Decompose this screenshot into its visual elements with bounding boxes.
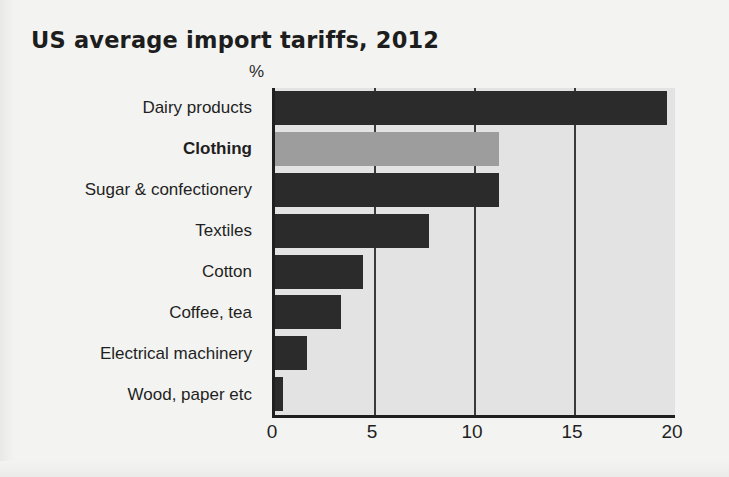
x-tick-label: 10	[461, 421, 482, 443]
category-label: Electrical machinery	[0, 333, 262, 374]
bar	[275, 91, 667, 125]
chart-title: US average import tariffs, 2012	[31, 27, 439, 53]
category-label: Wood, paper etc	[0, 374, 262, 415]
category-axis-labels: Dairy productsClothingSugar & confection…	[0, 88, 262, 415]
category-label: Dairy products	[0, 88, 262, 129]
bar	[275, 214, 429, 248]
x-tick-label: 15	[561, 421, 582, 443]
x-axis-tick-labels: 05101520	[272, 421, 672, 451]
bar-highlighted	[275, 132, 499, 166]
category-label: Textiles	[0, 211, 262, 252]
bar	[275, 255, 363, 289]
bar	[275, 173, 499, 207]
bar-row	[275, 292, 675, 333]
x-tick-label: 0	[267, 421, 278, 443]
bar-row	[275, 170, 675, 211]
x-tick-label: 20	[661, 421, 682, 443]
x-tick-label: 5	[367, 421, 378, 443]
bar-row	[275, 88, 675, 129]
bar-row	[275, 129, 675, 170]
category-label: Cotton	[0, 252, 262, 293]
axis-unit-label: %	[249, 62, 264, 82]
bar	[275, 336, 307, 370]
bar	[275, 377, 283, 411]
category-label: Sugar & confectionery	[0, 170, 262, 211]
bar-row	[275, 333, 675, 374]
bar-row	[275, 374, 675, 415]
page-edge-shading-bottom	[0, 461, 729, 477]
plot-area	[272, 88, 675, 418]
bar	[275, 295, 341, 329]
bar-row	[275, 252, 675, 293]
category-label: Coffee, tea	[0, 292, 262, 333]
bar-series	[275, 88, 675, 415]
bar-row	[275, 211, 675, 252]
category-label: Clothing	[0, 129, 262, 170]
